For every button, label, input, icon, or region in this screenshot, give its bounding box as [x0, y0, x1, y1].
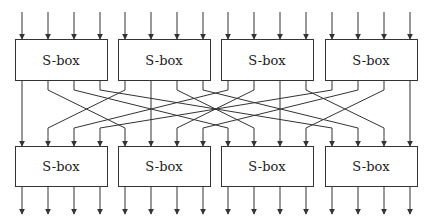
sbox-top-2: S-box	[119, 40, 211, 81]
permutation-wire	[48, 80, 125, 146]
sbox-rows: S-boxS-boxS-boxS-boxS-boxS-boxS-boxS-box	[16, 40, 418, 187]
sbox-label: S-box	[42, 53, 80, 68]
sbox-label: S-box	[248, 159, 286, 174]
sbox-bottom-4: S-box	[326, 147, 418, 187]
sbox-bottom-1: S-box	[16, 147, 108, 187]
sbox-top-4: S-box	[326, 40, 418, 81]
spn-diagram: S-boxS-boxS-boxS-boxS-boxS-boxS-boxS-box	[0, 0, 432, 220]
sbox-label: S-box	[248, 53, 286, 68]
sbox-label: S-box	[145, 53, 183, 68]
sbox-bottom-2: S-box	[119, 147, 211, 187]
permutation-wire	[306, 80, 384, 146]
sbox-top-3: S-box	[222, 40, 314, 81]
sbox-label: S-box	[352, 53, 390, 68]
sbox-label: S-box	[42, 159, 80, 174]
sbox-label: S-box	[145, 159, 183, 174]
sbox-top-1: S-box	[16, 40, 108, 81]
sbox-label: S-box	[352, 159, 390, 174]
sbox-bottom-3: S-box	[222, 147, 314, 187]
permutation-wire	[48, 80, 125, 146]
permutation-wire	[306, 80, 384, 146]
